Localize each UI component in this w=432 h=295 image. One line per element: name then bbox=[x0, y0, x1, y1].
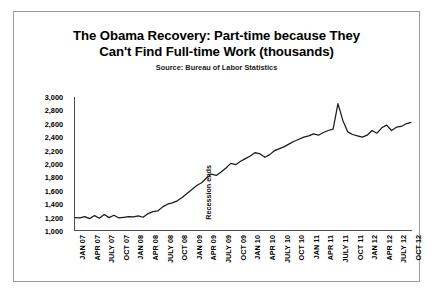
x-tick-label: JAN 08 bbox=[136, 235, 145, 260]
x-tick-label: OCT 11 bbox=[356, 235, 365, 260]
x-tick-label: OCT 09 bbox=[239, 235, 248, 261]
x-tick-label: JAN 12 bbox=[370, 235, 379, 260]
x-tick-label: APR 07 bbox=[93, 235, 102, 261]
x-tick-label: OCT 07 bbox=[122, 235, 131, 261]
y-tick-label: 1,200 bbox=[45, 213, 63, 222]
x-tick-label: OCT 08 bbox=[180, 235, 189, 261]
y-tick-label: 2,400 bbox=[45, 133, 63, 142]
x-tick-label: OCT 10 bbox=[297, 235, 306, 261]
y-tick-label: 2,000 bbox=[45, 160, 63, 169]
y-tick-label: 2,200 bbox=[45, 146, 63, 155]
chart-title: The Obama Recovery: Part-time because Th… bbox=[14, 28, 419, 60]
x-tick-label: APR 11 bbox=[326, 235, 335, 260]
recession-ends-annotation: Recession ends bbox=[204, 165, 213, 220]
y-tick-label: 1,400 bbox=[45, 200, 63, 209]
x-tick-label: JULY 09 bbox=[224, 235, 233, 263]
x-tick-label: JAN 11 bbox=[312, 235, 321, 259]
y-tick-label: 2,800 bbox=[45, 106, 63, 115]
x-tick-label: JULY 12 bbox=[399, 235, 408, 263]
y-tick-label: 2,600 bbox=[45, 119, 63, 128]
x-tick-label: APR 09 bbox=[209, 235, 218, 261]
y-tick-label: 1,600 bbox=[45, 186, 63, 195]
x-tick-label: JULY 11 bbox=[341, 235, 350, 263]
axis-lines bbox=[74, 97, 412, 231]
x-tick-label: JAN 07 bbox=[78, 235, 87, 260]
x-axis: JAN 07APR 07JULY 07OCT 07JAN 08APR 08JUL… bbox=[74, 235, 412, 281]
y-tick-label: 3,000 bbox=[45, 93, 63, 102]
chart-title-line-1: The Obama Recovery: Part-time because Th… bbox=[14, 28, 419, 44]
x-tick-label: APR 12 bbox=[385, 235, 394, 261]
chart-card: The Obama Recovery: Part-time because Th… bbox=[13, 11, 420, 282]
line-chart-svg bbox=[74, 97, 412, 231]
y-tick-label: 1,000 bbox=[45, 227, 63, 236]
y-axis: 3,0002,8002,6002,4002,2002,0001,8001,600… bbox=[14, 91, 70, 237]
x-tick-label: APR 10 bbox=[268, 235, 277, 261]
chart-source-note: Source: Bureau of Labor Statistics bbox=[14, 63, 419, 72]
x-tick-label: OCT 12 bbox=[414, 235, 423, 261]
x-tick-label: JULY 10 bbox=[283, 235, 292, 263]
x-tick-label: JULY 08 bbox=[166, 235, 175, 263]
data-series-line bbox=[75, 104, 411, 219]
chart-title-line-2: Can't Find Full-time Work (thousands) bbox=[14, 44, 419, 60]
x-tick-label: APR 08 bbox=[151, 235, 160, 261]
plot-area bbox=[74, 97, 412, 231]
x-tick-label: JAN 10 bbox=[253, 235, 262, 260]
x-tick-label: JULY 07 bbox=[107, 235, 116, 263]
x-tick-label: JAN 09 bbox=[195, 235, 204, 260]
y-tick-label: 1,800 bbox=[45, 173, 63, 182]
